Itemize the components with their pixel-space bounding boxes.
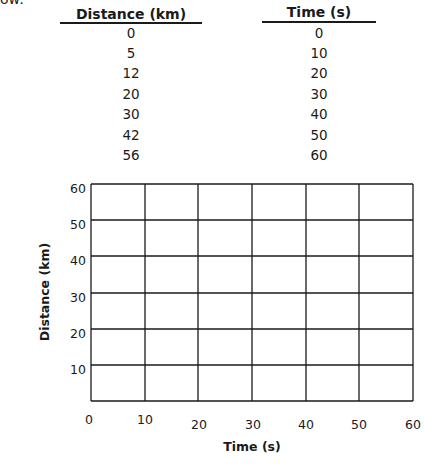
x-tick: 60 <box>405 417 421 432</box>
y-tick: 40 <box>70 253 86 268</box>
x-tick: 40 <box>298 417 314 432</box>
y-tick: 50 <box>70 217 86 232</box>
blank-graph: 60 50 40 30 20 10 0 10 20 30 40 50 60 Ti… <box>0 0 424 474</box>
x-tick: 20 <box>191 417 207 432</box>
x-tick: 10 <box>137 412 153 427</box>
y-tick: 60 <box>70 181 86 196</box>
x-axis-ticks: 0 10 20 30 40 50 60 <box>85 412 421 432</box>
x-axis-title: Time (s) <box>223 439 281 454</box>
y-tick: 10 <box>70 362 86 377</box>
y-axis-title: Distance (km) <box>37 243 52 341</box>
x-tick: 50 <box>351 417 367 432</box>
grid <box>91 184 413 401</box>
y-axis-ticks: 60 50 40 30 20 10 <box>70 181 86 377</box>
y-tick: 30 <box>70 290 86 305</box>
y-tick: 20 <box>70 326 86 341</box>
x-tick: 0 <box>85 412 93 427</box>
x-tick: 30 <box>245 417 261 432</box>
